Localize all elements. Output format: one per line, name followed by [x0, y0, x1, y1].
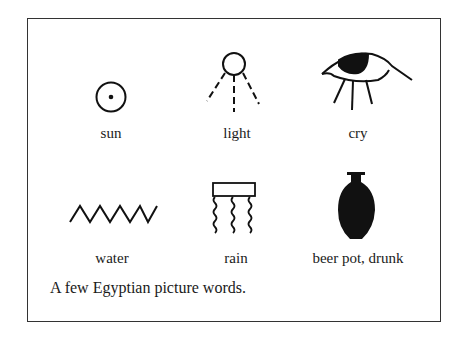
rain-glyph-icon: [213, 183, 255, 233]
label-sun: sun: [41, 124, 181, 142]
light-glyph-icon: [207, 53, 259, 112]
label-rain: rain: [166, 249, 306, 267]
beer-pot-glyph-icon: [338, 172, 375, 239]
eye-tears-glyph-icon: [322, 54, 412, 110]
figure-caption: A few Egyptian picture words.: [50, 278, 246, 298]
label-water: water: [42, 249, 182, 267]
zigzag-water-glyph-icon: [70, 206, 157, 222]
label-beer-pot: beer pot, drunk: [288, 249, 428, 267]
label-cry: cry: [288, 124, 428, 142]
label-light: light: [167, 124, 307, 142]
sun-glyph-icon: [97, 83, 126, 112]
